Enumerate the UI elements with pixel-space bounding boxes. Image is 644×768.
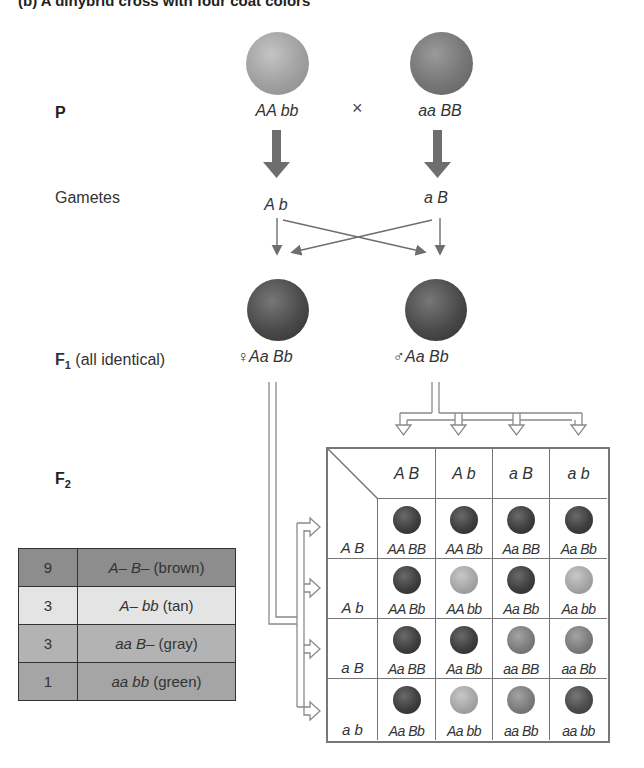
offspring-animal (565, 566, 593, 594)
offspring-genotype: AA bb (436, 601, 492, 617)
ratio-genotype: aa B– (115, 635, 154, 652)
f1-male-genotype-text: Aa Bb (405, 348, 449, 365)
punnett-cell: Aa bb (436, 679, 493, 740)
ratio-phenotype: (gray) (154, 635, 197, 652)
punnett-cell: aa bb (550, 679, 607, 740)
offspring-genotype: aa Bb (550, 661, 607, 677)
parent-right-animal (410, 32, 473, 95)
punnett-cell: aa Bb (493, 679, 550, 740)
f1-female-genotype: ♀Aa Bb (237, 348, 327, 366)
gamete-right: a B (396, 189, 476, 207)
f1-male-animal (405, 279, 467, 341)
col-header: A B (378, 449, 436, 499)
ratio-description: aa B– (gray) (78, 625, 236, 663)
punnett-cell: Aa Bb (436, 619, 493, 679)
parent-to-gamete-arrow-left (263, 130, 290, 178)
offspring-genotype: aa bb (550, 723, 607, 739)
offspring-animal (450, 506, 478, 534)
punnett-cell: AA Bb (378, 559, 436, 619)
female-gamete-distribution (269, 382, 320, 720)
punnett-cell: Aa BB (493, 499, 550, 559)
row-header: A b (328, 559, 378, 619)
offspring-genotype: AA Bb (378, 601, 435, 617)
ratio-phenotype: (green) (149, 673, 202, 690)
offspring-animal (507, 506, 535, 534)
offspring-animal (393, 626, 421, 654)
punnett-cell: aa BB (493, 619, 550, 679)
gametes-label: Gametes (55, 189, 120, 207)
ratio-row-green: 1 aa bb (green) (19, 663, 236, 701)
f2-main: F (55, 470, 65, 487)
offspring-animal (565, 686, 593, 714)
f1-note: (all identical) (71, 351, 165, 368)
ratio-description: A– bb (tan) (78, 587, 236, 625)
punnett-cell: AA Bb (436, 499, 493, 559)
ratio-count: 3 (19, 587, 78, 625)
punnett-corner (328, 449, 378, 499)
offspring-animal (393, 686, 421, 714)
offspring-animal (565, 506, 593, 534)
gamete-cross-lines (277, 218, 440, 253)
punnett-cell: Aa Bb (493, 559, 550, 619)
offspring-animal (393, 506, 421, 534)
col-header: a B (493, 449, 550, 499)
punnett-cell: aa Bb (550, 619, 607, 679)
cross-symbol: × (352, 98, 363, 119)
punnett-cell: Aa Bb (550, 499, 607, 559)
offspring-genotype: aa BB (493, 661, 549, 677)
ratio-count: 3 (19, 625, 78, 663)
ratio-row-tan: 3 A– bb (tan) (19, 587, 236, 625)
ratio-phenotype: (brown) (149, 559, 204, 576)
f2-generation-label: F2 (55, 470, 71, 490)
male-gamete-distribution (396, 382, 586, 435)
ratio-count: 9 (19, 549, 78, 587)
offspring-genotype: Aa bb (550, 601, 607, 617)
offspring-animal (450, 686, 478, 714)
parent-to-gamete-arrow-right (424, 130, 451, 178)
ratio-count: 1 (19, 663, 78, 701)
punnett-cell: AA bb (436, 559, 493, 619)
col-header: A b (436, 449, 493, 499)
parent-left-animal (246, 32, 309, 95)
offspring-animal (393, 566, 421, 594)
offspring-genotype: aa Bb (493, 723, 549, 739)
offspring-genotype: AA BB (378, 541, 435, 557)
offspring-animal (507, 626, 535, 654)
punnett-cell: Aa Bb (378, 679, 436, 740)
ratio-description: A– B– (brown) (78, 549, 236, 587)
parent-right-genotype: aa BB (400, 102, 480, 120)
punnett-cell: Aa bb (550, 559, 607, 619)
ratio-genotype: aa bb (111, 673, 149, 690)
f2-sub: 2 (65, 478, 71, 490)
punnett-square: A B A b a B a b A B AA BB AA Bb Aa BB Aa… (326, 447, 610, 767)
offspring-animal (450, 566, 478, 594)
offspring-genotype: Aa Bb (436, 661, 492, 677)
ratio-description: aa bb (green) (78, 663, 236, 701)
male-symbol-icon: ♂ (393, 348, 405, 365)
offspring-genotype: Aa BB (378, 661, 435, 677)
f1-main: F (55, 351, 65, 368)
offspring-genotype: Aa Bb (493, 601, 549, 617)
offspring-genotype: Aa bb (436, 723, 492, 739)
ratio-row-brown: 9 A– B– (brown) (19, 549, 236, 587)
f1-male-genotype: ♂Aa Bb (393, 348, 483, 366)
offspring-genotype: Aa Bb (550, 541, 607, 557)
offspring-animal (507, 686, 535, 714)
row-header: A B (328, 499, 378, 559)
ratio-phenotype: (tan) (159, 597, 194, 614)
f1-female-genotype-text: Aa Bb (249, 348, 293, 365)
offspring-animal (565, 626, 593, 654)
ratio-row-gray: 3 aa B– (gray) (19, 625, 236, 663)
offspring-genotype: Aa Bb (378, 723, 435, 739)
f1-female-animal (247, 279, 309, 341)
offspring-genotype: Aa BB (493, 541, 549, 557)
ratio-genotype: A– bb (119, 597, 158, 614)
row-header: a b (328, 679, 378, 740)
phenotype-ratio-table: 9 A– B– (brown) 3 A– bb (tan) 3 aa B– (g… (18, 548, 236, 701)
offspring-genotype: AA Bb (436, 541, 492, 557)
f1-generation-label: F1 (all identical) (55, 351, 165, 371)
ratio-genotype: A– B– (109, 559, 150, 576)
row-header: a B (328, 619, 378, 679)
parent-left-genotype: AA bb (237, 102, 317, 120)
female-symbol-icon: ♀ (237, 348, 249, 365)
